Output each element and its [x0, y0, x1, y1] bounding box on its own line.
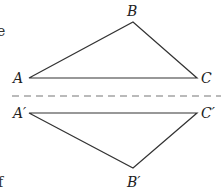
- cropped-text-fragment-top: e: [0, 23, 5, 39]
- label-a: A: [11, 70, 23, 86]
- triangle-abc: [29, 22, 197, 78]
- reflection-diagram: e f B A C A′ C′ B′: [0, 0, 221, 192]
- label-a-prime: A′: [11, 105, 27, 121]
- cropped-text-fragment-bottom: f: [0, 174, 5, 190]
- triangle-a-prime-b-prime-c-prime: [29, 113, 197, 168]
- label-c-prime: C′: [201, 105, 216, 121]
- label-b-prime: B′: [126, 174, 141, 190]
- label-c: C: [201, 70, 212, 86]
- label-b: B: [126, 3, 137, 19]
